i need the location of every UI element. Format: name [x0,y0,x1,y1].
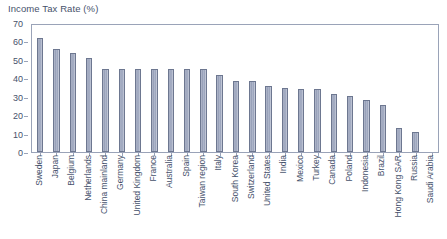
bar [200,69,206,152]
x-tick-label: Brazil [377,155,386,176]
y-tick-mark [24,116,28,117]
bar-slot [200,25,206,152]
bar-slot [151,25,157,152]
bar-slot [135,25,141,152]
y-axis: 010203040506070 [0,24,28,153]
bar [249,81,255,152]
x-tick-label: South Korea [231,155,240,202]
x-tick-label: United States [263,155,272,206]
x-tick-label: Netherlands [84,155,93,201]
y-tick-mark [24,135,28,136]
x-tick-label: Poland [345,155,354,181]
bar-slot [314,25,320,152]
bar-slot [265,25,271,152]
bar [102,69,108,152]
bar-slot [380,25,386,152]
bar [135,69,141,152]
x-tick-label: Turkey [312,155,321,181]
x-tick-label: Germany [116,155,125,190]
x-tick-label: Japan [51,155,60,178]
bar-slot [184,25,190,152]
bar-slot [168,25,174,152]
bar-slot [119,25,125,152]
bar [37,38,43,152]
bar [412,132,418,152]
bar [363,100,369,152]
bar [184,69,190,152]
y-tick-mark [24,79,28,80]
y-tick-label: 10 [13,130,23,140]
bar [298,89,304,152]
x-tick-label: Russia [410,155,419,181]
x-tick-label: Belgium [67,155,76,186]
x-tick-label: Switzerland [247,155,256,199]
bar-slot [282,25,288,152]
x-tick-label: Taiwan region [198,155,207,207]
bar-slot [216,25,222,152]
bar [347,96,353,152]
bar-slot [53,25,59,152]
y-tick-mark [24,61,28,62]
bar-slot [102,25,108,152]
plot-area [32,25,438,152]
x-tick-label: India [279,155,288,173]
x-tick-label: France [149,155,158,181]
plot-frame [31,24,439,153]
bar [168,69,174,152]
y-tick-label: 60 [13,37,23,47]
x-tick-label: Saudi Arabia [426,155,435,203]
x-tick-label: Hong Kong SAR [394,155,403,217]
bar-slot [347,25,353,152]
bar-slot [249,25,255,152]
bar-slot [233,25,239,152]
bar-slot [298,25,304,152]
x-axis: SwedenJapanBelgiumNetherlandsChina mainl… [31,155,439,239]
chart-title: Income Tax Rate (%) [8,3,98,14]
x-tick-label: China mainland [100,155,109,214]
bar [396,128,402,152]
bar [314,89,320,152]
bar-slot [331,25,337,152]
bar [265,86,271,152]
x-tick-label: Spain [182,155,191,177]
y-tick-label: 50 [13,56,23,66]
bar [70,53,76,152]
bar-slot [86,25,92,152]
x-tick-label: Australia [165,155,174,188]
y-tick-label: 0 [18,148,23,158]
bar-slot [363,25,369,152]
bar-slot [37,25,43,152]
x-tick-label: United Kingdom [133,155,142,215]
bar [331,94,337,152]
y-tick-label: 20 [13,111,23,121]
x-tick-label: Mexico [296,155,305,182]
y-tick-mark [24,42,28,43]
bar [119,69,125,152]
bar [282,88,288,153]
y-tick-label: 70 [13,19,23,29]
x-tick-label: Canada [328,155,337,185]
bar [233,81,239,152]
x-tick-label: Indonesia [361,155,370,192]
x-tick-label: Sweden [35,155,44,186]
y-tick-mark [24,153,28,154]
bar-slot [70,25,76,152]
x-tick-label: Italy [214,155,223,171]
bar-slot [412,25,418,152]
bar [53,49,59,152]
bar [86,58,92,152]
bar [216,75,222,152]
bar [380,105,386,152]
bar [151,69,157,152]
y-tick-mark [24,98,28,99]
y-tick-label: 40 [13,74,23,84]
bar-slot [429,25,435,152]
income-tax-rate-bar-chart: Income Tax Rate (%) 010203040506070 Swed… [0,0,447,239]
y-tick-label: 30 [13,93,23,103]
bar-slot [396,25,402,152]
